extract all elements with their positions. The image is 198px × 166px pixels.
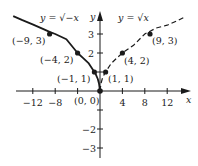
point-origin bbox=[97, 88, 103, 94]
curve-label-sqrt-x: y = √x bbox=[117, 12, 149, 23]
y-tick-label: −3 bbox=[82, 143, 96, 154]
graph-canvas: −12 −8 4 8 12 3 2 −2 −3 x y y = √−x y = … bbox=[0, 0, 198, 166]
x-tick-label: 4 bbox=[119, 97, 125, 108]
point-label: (−1, 1) bbox=[57, 73, 91, 84]
y-axis-label: y bbox=[89, 11, 96, 22]
x-tick-label: 8 bbox=[142, 97, 148, 108]
y-tick-label: 3 bbox=[88, 29, 94, 40]
point-neg9-3 bbox=[47, 31, 52, 36]
point-label: (1, 1) bbox=[108, 73, 134, 84]
y-tick-label: 2 bbox=[88, 48, 94, 59]
y-tick-label: −2 bbox=[82, 124, 96, 135]
point-label: (9, 3) bbox=[152, 35, 178, 46]
x-axis-label: x bbox=[186, 94, 192, 105]
curve-label-sqrt-neg-x: y = √−x bbox=[39, 12, 79, 23]
point-neg1-1 bbox=[92, 69, 97, 74]
point-label: (0, 0) bbox=[74, 95, 100, 106]
point-label: (−4, 2) bbox=[40, 54, 74, 65]
point-label: (4, 2) bbox=[124, 55, 150, 66]
x-tick-label: 12 bbox=[161, 97, 173, 108]
point-label: (−9, 3) bbox=[12, 35, 46, 46]
x-tick-label: −8 bbox=[48, 97, 62, 108]
y-axis-arrow-icon bbox=[97, 11, 103, 21]
point-neg4-2 bbox=[75, 50, 80, 55]
x-tick-label: −12 bbox=[23, 97, 43, 108]
